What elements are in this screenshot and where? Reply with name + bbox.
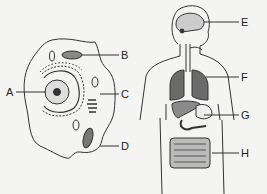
label-b: B (121, 50, 128, 61)
label-g: G (241, 110, 250, 121)
brain (176, 13, 204, 32)
lungs (170, 70, 184, 100)
mitochondrion-b (62, 51, 82, 59)
label-f: F (241, 72, 248, 83)
human-body (140, 6, 239, 194)
mitochondrion-d (81, 127, 95, 149)
label-a: A (6, 87, 13, 98)
intestines (170, 138, 210, 168)
label-d: D (121, 141, 129, 152)
stomach (196, 104, 212, 118)
nucleolus (54, 89, 61, 96)
label-h: H (241, 148, 249, 159)
label-c: C (121, 89, 129, 100)
golgi-c (87, 100, 97, 112)
label-e: E (241, 17, 248, 28)
animal-cell (16, 39, 119, 158)
diagram-canvas (0, 0, 267, 194)
